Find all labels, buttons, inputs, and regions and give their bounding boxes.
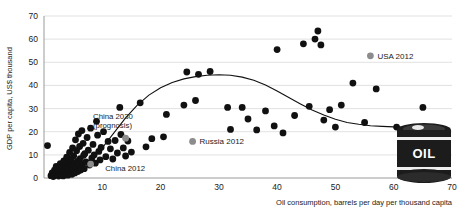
x-axis-tick-labels: 10203040506070 bbox=[98, 182, 457, 192]
data-point bbox=[98, 144, 105, 151]
y-tick-label: 40 bbox=[29, 80, 39, 90]
data-point bbox=[105, 138, 112, 145]
chart-legend: USA 2012Russia 2012 bbox=[189, 52, 414, 147]
y-tick-label: 60 bbox=[29, 34, 39, 44]
data-point bbox=[148, 135, 155, 142]
data-point bbox=[192, 97, 199, 104]
y-tick-label: 0 bbox=[33, 173, 38, 183]
legend-label-usa-2012: USA 2012 bbox=[377, 52, 414, 61]
data-point bbox=[44, 142, 51, 149]
data-point bbox=[109, 156, 116, 163]
x-axis-title: Oil consumption, barrels per day per tho… bbox=[276, 198, 453, 207]
data-point bbox=[338, 102, 345, 109]
data-point bbox=[291, 112, 298, 119]
data-point bbox=[94, 132, 101, 139]
data-point bbox=[143, 143, 150, 150]
data-point bbox=[122, 153, 129, 160]
data-point bbox=[420, 104, 427, 111]
data-point bbox=[122, 135, 129, 142]
x-tick-label: 50 bbox=[331, 182, 341, 192]
data-point bbox=[80, 140, 87, 147]
y-tick-label: 20 bbox=[29, 127, 39, 137]
data-point bbox=[107, 145, 114, 152]
data-point bbox=[137, 99, 144, 106]
data-point bbox=[79, 127, 86, 134]
oil-barrel-icon: OIL bbox=[397, 123, 451, 183]
oil-barrel-label: OIL bbox=[412, 146, 435, 161]
legend-marker-russia-2012 bbox=[189, 138, 196, 145]
data-point bbox=[224, 104, 231, 111]
data-point bbox=[312, 36, 319, 43]
data-point bbox=[116, 104, 123, 111]
data-point bbox=[207, 68, 214, 75]
scatter-points-countries bbox=[44, 28, 426, 180]
data-point bbox=[274, 46, 281, 53]
data-point bbox=[85, 147, 92, 154]
x-tick-label: 60 bbox=[389, 182, 399, 192]
data-point bbox=[332, 124, 339, 131]
x-tick-label: 20 bbox=[156, 182, 166, 192]
data-point bbox=[181, 102, 188, 109]
data-point bbox=[326, 106, 333, 113]
chart-annotations: China 2030(prognosis)China 2012 bbox=[93, 112, 145, 173]
y-tick-label: 30 bbox=[29, 104, 39, 114]
data-point bbox=[306, 103, 313, 110]
data-point bbox=[160, 133, 167, 140]
oil-gdp-scatter-chart: 010203040506070 10203040506070 China 203… bbox=[0, 0, 460, 222]
data-point bbox=[350, 80, 357, 87]
data-point bbox=[239, 104, 246, 111]
data-point bbox=[271, 123, 278, 130]
y-axis-tick-labels: 010203040506070 bbox=[29, 11, 39, 183]
data-point bbox=[245, 116, 252, 123]
data-point bbox=[253, 126, 260, 133]
y-axis-title: GDP per capita, US$ thousand bbox=[5, 47, 14, 150]
data-point bbox=[87, 161, 94, 168]
data-point bbox=[114, 150, 121, 157]
data-point bbox=[84, 134, 91, 141]
annotation-china-2030-line2: (prognosis) bbox=[93, 121, 132, 130]
y-tick-label: 10 bbox=[29, 150, 39, 160]
data-point bbox=[300, 40, 307, 47]
x-tick-label: 10 bbox=[98, 182, 108, 192]
data-point bbox=[102, 153, 109, 160]
y-tick-label: 50 bbox=[29, 57, 39, 67]
annotation-china-2030: China 2030 bbox=[93, 112, 134, 121]
data-point bbox=[320, 117, 327, 124]
legend-label-russia-2012: Russia 2012 bbox=[200, 137, 245, 146]
y-tick-label: 70 bbox=[29, 11, 39, 21]
x-tick-label: 40 bbox=[272, 182, 282, 192]
annotation-china-2012: China 2012 bbox=[105, 164, 145, 173]
data-point bbox=[90, 141, 97, 148]
data-point bbox=[315, 28, 322, 35]
data-point bbox=[72, 136, 79, 143]
chart-canvas: 010203040506070 10203040506070 China 203… bbox=[0, 0, 460, 222]
data-point bbox=[361, 119, 368, 126]
x-tick-label: 30 bbox=[214, 182, 224, 192]
data-point bbox=[120, 145, 127, 152]
data-point bbox=[262, 108, 269, 115]
data-point bbox=[227, 126, 234, 133]
data-point bbox=[318, 42, 325, 49]
data-point bbox=[97, 157, 104, 164]
x-tick-label: 70 bbox=[447, 182, 457, 192]
data-point bbox=[112, 137, 119, 144]
data-point bbox=[280, 130, 287, 137]
data-point bbox=[128, 149, 135, 156]
data-point bbox=[163, 111, 170, 118]
data-point bbox=[373, 86, 380, 93]
data-point bbox=[195, 71, 202, 78]
data-point bbox=[183, 69, 190, 76]
legend-marker-usa-2012 bbox=[367, 52, 374, 59]
